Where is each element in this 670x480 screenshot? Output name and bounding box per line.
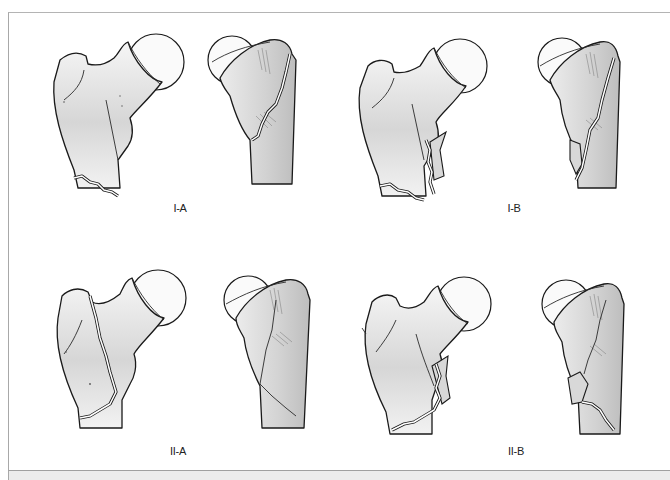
caption-band <box>8 470 670 480</box>
panel-label: II-B <box>486 445 546 457</box>
femur-lateral-view <box>0 0 670 480</box>
